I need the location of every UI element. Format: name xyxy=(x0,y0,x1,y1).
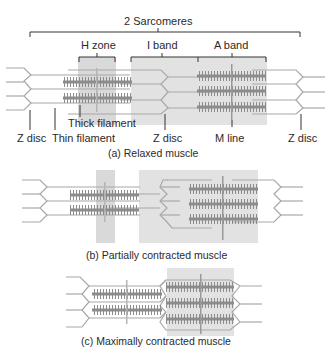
a-band-label: A band xyxy=(214,39,248,51)
thick-filaments-right xyxy=(197,64,266,120)
caption-partial: (b) Partially contracted muscle xyxy=(86,249,227,261)
i-band-label: I band xyxy=(147,39,178,51)
sarcomeres-bracket xyxy=(30,28,300,37)
caption-maximal: (c) Maximally contracted muscle xyxy=(81,335,231,347)
thick-filament-label: Thick filament xyxy=(68,117,136,129)
z-disc-middle-label: Z disc xyxy=(153,132,182,144)
z-disc-right-label: Z disc xyxy=(288,132,317,144)
z-disc-left-label: Z disc xyxy=(17,132,46,144)
m-line-label: M line xyxy=(215,132,244,144)
thin-filament-label: Thin filament xyxy=(52,132,115,144)
panel-maximal xyxy=(66,268,262,336)
sarcomere-diagram xyxy=(0,0,336,354)
h-zone-label: H zone xyxy=(81,39,116,51)
sarcomeres-label: 2 Sarcomeres xyxy=(124,15,192,27)
caption-relaxed: (a) Relaxed muscle xyxy=(108,147,198,159)
panel-partial xyxy=(22,170,303,243)
